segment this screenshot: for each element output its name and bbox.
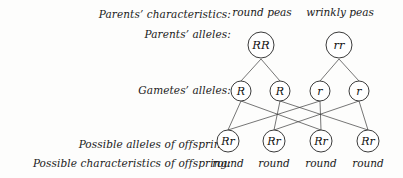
parent-phenotype-1: round peas [232, 7, 292, 18]
offspring-allele-node-3: Rr [310, 130, 333, 153]
offspring-phenotype-2: round [258, 158, 290, 169]
line-gamete3-offspring1 [228, 101, 320, 130]
parent-to-gamete-lines [241, 59, 359, 81]
offspring-allele-text-4: Rr [361, 136, 375, 147]
line-gamete4-offspring4 [359, 101, 368, 130]
gamete-allele-node-3: r [310, 81, 331, 102]
offspring-phenotype-4: round [352, 158, 384, 169]
offspring-phenotype-3: round [305, 158, 337, 169]
offspring-allele-node-4: Rr [357, 130, 380, 153]
line-gamete1-offspring1 [228, 101, 241, 130]
gamete-allele-node-4: r [349, 81, 370, 102]
parent-allele-text-2: rr [334, 39, 345, 51]
gamete-allele-text-4: r [356, 86, 361, 97]
gamete-to-offspring-lines [228, 101, 368, 130]
line-parent2-gamete3 [320, 59, 339, 81]
parent-allele-node-2: rr [326, 32, 353, 59]
label-parents-characteristics: Parents’ characteristics: [99, 9, 231, 20]
label-offspring-alleles: Possible alleles of offspring: [79, 139, 231, 150]
parent-phenotype-2: wrinkly peas [306, 7, 374, 18]
line-parent1-gamete2 [261, 59, 280, 81]
line-gamete1-offspring3 [241, 101, 321, 130]
label-offspring-characteristics: Possible characteristics of offspring: [33, 158, 231, 169]
gamete-allele-node-1: R [231, 81, 252, 102]
gamete-allele-text-3: r [317, 86, 322, 97]
punnett-cross-diagram: Parents’ characteristics: Parents’ allel… [0, 0, 403, 178]
line-parent1-gamete1 [241, 59, 261, 81]
offspring-allele-node-1: Rr [217, 130, 240, 153]
parent-allele-node-1: RR [248, 32, 275, 59]
gamete-allele-text-1: R [237, 86, 245, 97]
line-gamete4-offspring2 [274, 101, 359, 130]
parent-allele-text-1: RR [252, 39, 269, 51]
label-gametes-alleles: Gametes’ alleles: [138, 85, 231, 96]
offspring-allele-node-2: Rr [263, 130, 286, 153]
gamete-allele-text-2: R [276, 86, 284, 97]
offspring-allele-text-1: Rr [221, 136, 235, 147]
offspring-allele-text-2: Rr [267, 136, 281, 147]
line-gamete2-offspring4 [280, 101, 368, 130]
offspring-phenotype-1: round [212, 158, 244, 169]
line-parent2-gamete4 [339, 59, 359, 81]
line-gamete3-offspring3 [320, 101, 321, 130]
label-parents-alleles: Parents’ alleles: [144, 29, 231, 40]
gamete-allele-node-2: R [270, 81, 291, 102]
offspring-allele-text-3: Rr [314, 136, 328, 147]
